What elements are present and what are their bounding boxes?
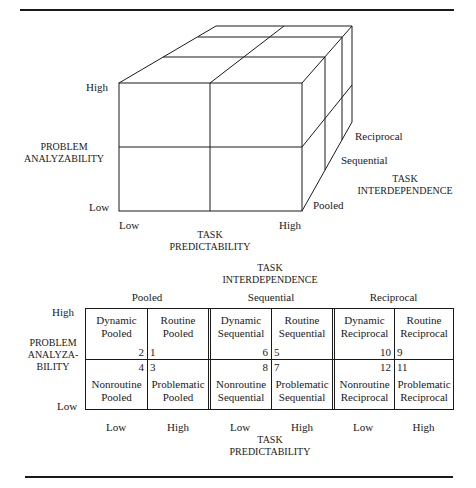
cube-x-low-label: Low	[119, 219, 139, 231]
table-predictability-title: TASK PREDICTABILITY	[220, 434, 320, 458]
cell-problematic-pooled: 3 ProblematicPooled	[148, 360, 208, 409]
group-header-reciprocal: Reciprocal	[333, 291, 454, 303]
cell-problematic-reciprocal: 11 ProblematicReciprocal	[395, 360, 453, 409]
cell-line2: Reciprocal	[335, 327, 394, 340]
cell-line1: Routine	[148, 314, 208, 327]
cube-y-axis-title: PROBLEM ANALYZABILITY	[18, 141, 110, 165]
table-row-high-label: High	[52, 306, 74, 318]
bottom-rule	[25, 476, 453, 478]
cell-nonroutine-pooled: 4 NonroutinePooled	[86, 360, 147, 409]
cell-line2: Reciprocal	[395, 327, 453, 340]
cube-y-title-line2: ANALYZABILITY	[18, 153, 110, 165]
table-interdependence-title: TASK INTERDEPENDENCE	[220, 262, 320, 286]
cell-number: 5	[274, 346, 280, 358]
cube-x-axis-title: TASK PREDICTABILITY	[160, 229, 260, 253]
cell-line2: Sequential	[272, 327, 332, 340]
col-label-low: Low	[209, 421, 271, 433]
cell-line2: Reciprocal	[335, 391, 394, 404]
cell-line1: Nonroutine	[335, 378, 394, 391]
cell-problematic-sequential: 7 ProblematicSequential	[272, 360, 332, 409]
cell-line1: Problematic	[148, 378, 208, 391]
group-header-pooled: Pooled	[85, 291, 209, 303]
cell-routine-reciprocal: RoutineReciprocal 9	[395, 309, 453, 359]
cell-nonroutine-sequential: 8 NonroutineSequential	[211, 360, 271, 409]
group-divider	[332, 309, 333, 409]
cube-x-title-line2: PREDICTABILITY	[160, 241, 260, 253]
cell-number: 11	[397, 361, 408, 373]
cube-x-title-line1: TASK	[160, 229, 260, 241]
cell-line1: Nonroutine	[211, 378, 271, 391]
col-label-low: Low	[333, 421, 393, 433]
cell-line2: Reciprocal	[395, 391, 453, 404]
table-header-line2: INTERDEPENDENCE	[220, 274, 320, 286]
cell-line1: Dynamic	[211, 314, 271, 327]
cell-dynamic-reciprocal: DynamicReciprocal 10	[335, 309, 394, 359]
cell-line2: Pooled	[148, 391, 208, 404]
cell-line1: Dynamic	[335, 314, 394, 327]
typology-table: DynamicPooled 2 RoutinePooled 1 DynamicS…	[85, 308, 454, 410]
cell-number: 6	[263, 346, 269, 358]
cell-line2: Sequential	[211, 327, 271, 340]
cell-number: 12	[380, 361, 391, 373]
table-col-title-line2: PREDICTABILITY	[220, 446, 320, 458]
cell-line1: Dynamic	[86, 314, 147, 327]
table-row-title-line1: PROBLEM	[18, 337, 88, 349]
col-label-high: High	[147, 421, 209, 433]
cell-line1: Problematic	[272, 378, 332, 391]
cell-number: 9	[397, 346, 403, 358]
cell-line2: Sequential	[272, 391, 332, 404]
group-header-sequential: Sequential	[209, 291, 333, 303]
cell-line2: Sequential	[211, 391, 271, 404]
col-label-high: High	[271, 421, 333, 433]
cube-y-title-line1: PROBLEM	[18, 141, 110, 153]
cell-routine-sequential: RoutineSequential 5	[272, 309, 332, 359]
cube-z-sequential-label: Sequential	[341, 154, 387, 166]
cell-line1: Nonroutine	[86, 378, 147, 391]
cell-line2: Pooled	[148, 327, 208, 340]
cell-dynamic-pooled: DynamicPooled 2	[86, 309, 147, 359]
cube-z-title-line1: TASK	[350, 173, 460, 185]
cell-number: 10	[380, 346, 391, 358]
cell-dynamic-sequential: DynamicSequential 6	[211, 309, 271, 359]
table-row-axis-title: PROBLEM ANALYZA- BILITY	[18, 337, 88, 373]
table-col-title-line1: TASK	[220, 434, 320, 446]
table-row-low-label: Low	[57, 400, 77, 412]
col-label-low: Low	[85, 421, 147, 433]
table-row-title-line2: ANALYZA-	[18, 349, 88, 361]
cube-z-axis-title: TASK INTERDEPENDENCE	[350, 173, 460, 197]
table-header-line1: TASK	[220, 262, 320, 274]
cell-line1: Routine	[272, 314, 332, 327]
cell-line1: Routine	[395, 314, 453, 327]
cube-z-title-line2: INTERDEPENDENCE	[350, 185, 460, 197]
cell-line1: Problematic	[395, 378, 453, 391]
cube-y-high-label: High	[86, 81, 108, 93]
cell-line2: Pooled	[86, 391, 147, 404]
table-row-title-line3: BILITY	[18, 361, 88, 373]
cube-diagram	[0, 0, 476, 250]
cube-y-low-label: Low	[89, 201, 109, 213]
group-divider	[208, 309, 209, 409]
cell-number: 2	[139, 346, 145, 358]
cell-number: 3	[150, 361, 156, 373]
cell-nonroutine-reciprocal: 12 NonroutineReciprocal	[335, 360, 394, 409]
cell-number: 1	[150, 346, 156, 358]
cube-x-high-label: High	[279, 219, 301, 231]
cell-number: 4	[139, 361, 145, 373]
cell-line2: Pooled	[86, 327, 147, 340]
cell-number: 7	[274, 361, 280, 373]
col-label-high: High	[393, 421, 454, 433]
cell-routine-pooled: RoutinePooled 1	[148, 309, 208, 359]
cell-number: 8	[263, 361, 269, 373]
cube-z-reciprocal-label: Reciprocal	[355, 130, 403, 142]
cube-z-pooled-label: Pooled	[313, 199, 344, 211]
